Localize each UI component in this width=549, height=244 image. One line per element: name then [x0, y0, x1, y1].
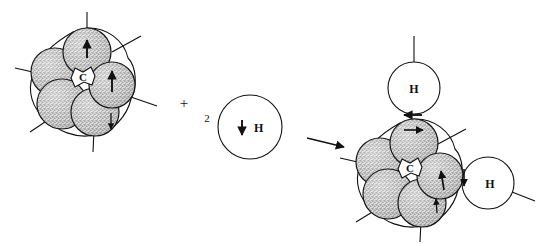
- hydrogen-right: H: [462, 157, 514, 209]
- stoichiometric-coefficient: 2: [204, 112, 210, 124]
- reactant-cluster: C: [15, 12, 157, 152]
- plus-sign: +: [180, 95, 188, 111]
- bond-hydrogen-right: [512, 192, 535, 201]
- product-cluster: H: [340, 36, 535, 242]
- hydrogen-right-label: H: [485, 177, 495, 191]
- reactant-center-label: C: [79, 71, 87, 83]
- hydrogen-circle: [218, 95, 282, 159]
- hydrogen-top: H: [388, 62, 440, 114]
- hydrogen-reactant: 2 H: [204, 95, 282, 159]
- reaction-diagram-svg: C + 2 H: [0, 0, 549, 244]
- reaction-arrow: [307, 138, 344, 147]
- product-center-label: C: [406, 162, 414, 174]
- sphere-right: [417, 153, 463, 199]
- diagram-canvas: C + 2 H: [0, 0, 549, 244]
- hydrogen-label: H: [254, 121, 264, 135]
- hydrogen-top-label: H: [409, 82, 419, 96]
